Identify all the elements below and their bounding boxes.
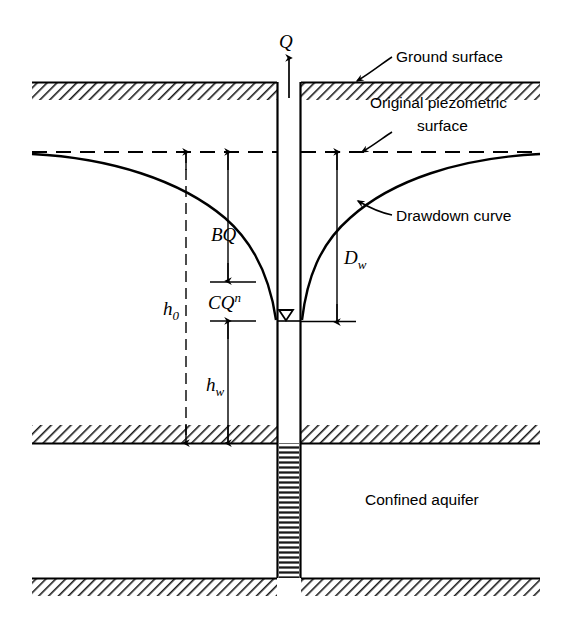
upper-confining-layer-left <box>32 425 277 444</box>
drawdown-curve-right <box>302 154 540 320</box>
lower-confining-layer-left <box>32 578 277 596</box>
confined-aquifer-label: Confined aquifer <box>365 491 479 508</box>
diagram-canvas: Q Ground surface Original piezometric su… <box>0 0 571 623</box>
water-table-triangle-icon <box>279 310 293 321</box>
piezometric-label-line1: Original piezometric <box>370 94 507 111</box>
ground-surface-label: Ground surface <box>396 48 503 65</box>
dimension-Dw <box>301 152 356 322</box>
drawdown-curve-label: Drawdown curve <box>396 207 511 224</box>
well-screen <box>279 443 299 578</box>
ground-surface-leader <box>357 57 392 81</box>
hw-label: hw <box>206 374 225 399</box>
discharge-label: Q <box>279 31 293 52</box>
CQn-label: CQn <box>208 290 241 313</box>
ground-surface-left <box>32 82 277 100</box>
lower-confining-layer-right <box>301 578 540 596</box>
aquifer-well-diagram: Q Ground surface Original piezometric su… <box>0 0 571 623</box>
h0-label: h0 <box>163 298 180 323</box>
upper-confining-layer-right <box>301 425 540 444</box>
Dw-label: Dw <box>343 247 367 272</box>
BQ-label: BQ <box>211 224 237 245</box>
piezometric-label-line2: surface <box>417 117 468 134</box>
piezometric-surface-leader <box>362 132 392 152</box>
